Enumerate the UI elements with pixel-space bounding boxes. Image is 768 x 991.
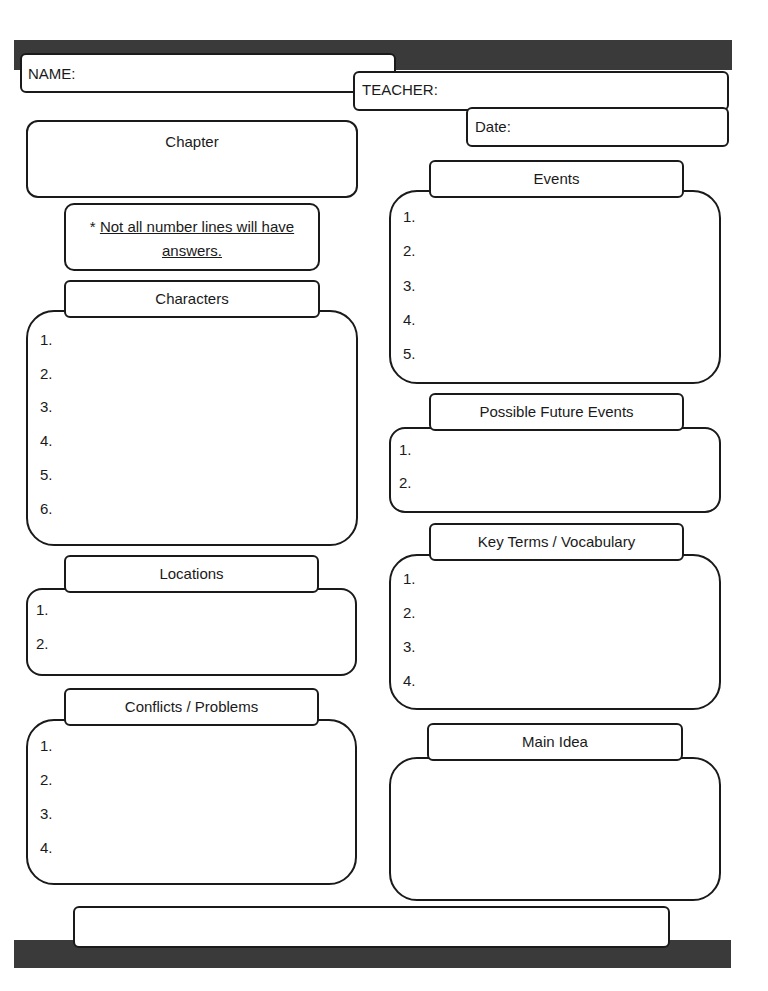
events-item-4: 4.	[403, 311, 416, 328]
characters-item-6: 6.	[40, 500, 53, 517]
characters-title: Characters	[155, 290, 228, 307]
future-events-title: Possible Future Events	[479, 403, 633, 420]
note-text: * Not all number lines will have answers…	[66, 215, 318, 263]
characters-title-tab: Characters	[64, 280, 320, 318]
locations-item-2: 2.	[36, 635, 49, 652]
events-item-3: 3.	[403, 277, 416, 294]
chapter-box[interactable]: Chapter	[26, 120, 358, 198]
conflicts-panel[interactable]: 1. 2. 3. 4.	[26, 719, 357, 885]
characters-item-5: 5.	[40, 466, 53, 483]
main-idea-title-tab: Main Idea	[427, 723, 683, 761]
teacher-field[interactable]: TEACHER:	[353, 71, 729, 111]
characters-item-1: 1.	[40, 331, 53, 348]
vocabulary-item-1: 1.	[403, 570, 416, 587]
locations-title-tab: Locations	[64, 555, 319, 593]
events-panel[interactable]: 1. 2. 3. 4. 5.	[389, 190, 721, 384]
note-asterisk: *	[90, 218, 100, 235]
future-events-panel[interactable]: 1. 2.	[389, 427, 721, 513]
locations-item-1: 1.	[36, 601, 49, 618]
note-line-2: answers.	[162, 242, 222, 259]
main-idea-panel[interactable]	[389, 757, 721, 901]
vocabulary-title-tab: Key Terms / Vocabulary	[429, 523, 684, 561]
footer-box[interactable]	[73, 906, 670, 948]
chapter-label: Chapter	[28, 133, 356, 150]
vocabulary-panel[interactable]: 1. 2. 3. 4.	[389, 554, 721, 710]
name-field[interactable]: NAME:	[20, 53, 396, 93]
date-field[interactable]: Date:	[466, 107, 729, 147]
events-title-tab: Events	[429, 160, 684, 198]
conflicts-item-4: 4.	[40, 839, 53, 856]
characters-item-4: 4.	[40, 432, 53, 449]
locations-title: Locations	[159, 565, 223, 582]
conflicts-item-3: 3.	[40, 805, 53, 822]
vocabulary-title: Key Terms / Vocabulary	[478, 533, 635, 550]
name-label: NAME:	[28, 65, 76, 82]
events-title: Events	[534, 170, 580, 187]
conflicts-item-1: 1.	[40, 737, 53, 754]
locations-panel[interactable]: 1. 2.	[26, 588, 357, 676]
teacher-label: TEACHER:	[362, 81, 438, 98]
future-events-item-1: 1.	[399, 441, 412, 458]
characters-item-3: 3.	[40, 398, 53, 415]
events-item-2: 2.	[403, 242, 416, 259]
vocabulary-item-2: 2.	[403, 604, 416, 621]
conflicts-title-tab: Conflicts / Problems	[64, 688, 319, 726]
date-label: Date:	[475, 118, 511, 135]
conflicts-title: Conflicts / Problems	[125, 698, 258, 715]
future-events-title-tab: Possible Future Events	[429, 393, 684, 431]
events-item-5: 5.	[403, 345, 416, 362]
conflicts-item-2: 2.	[40, 771, 53, 788]
note-box: * Not all number lines will have answers…	[64, 203, 320, 271]
characters-panel[interactable]: 1. 2. 3. 4. 5. 6.	[26, 310, 358, 546]
note-line-1: Not all number lines will have	[100, 218, 294, 235]
characters-item-2: 2.	[40, 365, 53, 382]
future-events-item-2: 2.	[399, 474, 412, 491]
main-idea-title: Main Idea	[522, 733, 588, 750]
vocabulary-item-3: 3.	[403, 638, 416, 655]
vocabulary-item-4: 4.	[403, 672, 416, 689]
events-item-1: 1.	[403, 208, 416, 225]
